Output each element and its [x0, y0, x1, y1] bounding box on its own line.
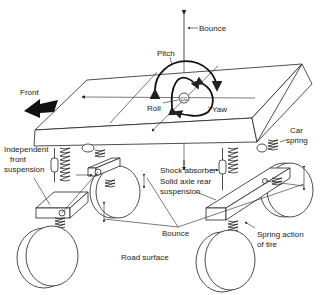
solid-axle-label-1: Solid axle rear [160, 177, 211, 186]
car-spring-label-2: spring [286, 136, 308, 145]
bounce-label-bottom: Bounce [162, 229, 190, 238]
solid-axle-label-2: suspension [160, 187, 200, 196]
front-label: Front [20, 88, 39, 97]
spring-action-label-1: Spring action [257, 230, 304, 239]
independent-front-label-2: front [10, 155, 27, 164]
pitch-label: Pitch [157, 49, 175, 58]
suspension-diagram: Bounce Pitch CG Roll Yaw Front Car sprin… [0, 0, 323, 295]
cg-label: CG [180, 96, 188, 102]
rear-suspension [196, 140, 313, 292]
car-spring-label-1: Car [290, 126, 303, 135]
independent-front-label-3: suspension [4, 165, 44, 174]
bounce-label-top: Bounce [199, 24, 227, 33]
car-body [34, 64, 312, 146]
roll-label: Roll [147, 104, 161, 113]
yaw-label: Yaw [212, 105, 227, 114]
spring-action-label-2: of tire [257, 240, 278, 249]
road-surface-label: Road surface [121, 253, 169, 262]
shock-absorber-label: Shock absorber [160, 166, 216, 175]
independent-front-label-1: Independent [4, 145, 49, 154]
